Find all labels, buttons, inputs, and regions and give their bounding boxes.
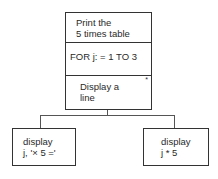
root-title-line2: 5 times table xyxy=(76,28,130,39)
divider-2 xyxy=(66,75,151,76)
iteration-marker-icon: * xyxy=(145,76,148,83)
child-box-right: display j * 5 xyxy=(143,128,209,166)
root-title-line1: Print the xyxy=(76,17,111,28)
connector-left xyxy=(40,115,41,128)
body-line1: Display a xyxy=(80,81,119,92)
child-right-line2: j * 5 xyxy=(161,147,177,158)
child-box-left: display j, '× 5 =' xyxy=(12,128,76,166)
loop-label: FOR j: = 1 TO 3 xyxy=(70,51,137,62)
root-box: Print the 5 times table FOR j: = 1 TO 3 … xyxy=(65,12,152,110)
connector-right xyxy=(174,115,175,128)
child-right-line1: display xyxy=(161,136,191,147)
child-left-line1: display xyxy=(23,136,53,147)
divider-1 xyxy=(66,42,151,43)
child-left-line2: j, '× 5 =' xyxy=(23,147,56,158)
body-line2: line xyxy=(80,92,95,103)
connector-horizontal xyxy=(40,115,175,116)
